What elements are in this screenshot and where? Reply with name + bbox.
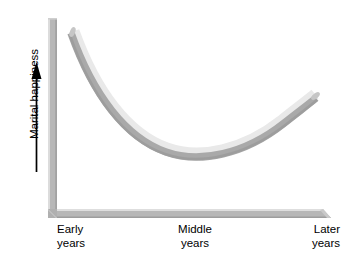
y-axis-highlight bbox=[48, 18, 50, 218]
x-tick-label-later-years: Later years bbox=[280, 223, 340, 250]
curve-highlight-band bbox=[74, 31, 315, 153]
y-axis-top-cap bbox=[48, 18, 57, 20]
chart-figure: Marital happiness Early years Middle yea… bbox=[0, 0, 349, 273]
x-tick-label-early-years: Early years bbox=[57, 223, 85, 250]
x-tick-label-middle-years: Middle years bbox=[160, 223, 230, 250]
y-axis-shade bbox=[55, 18, 57, 218]
marital-happiness-curve bbox=[68, 26, 321, 159]
x-axis-shadow bbox=[48, 217, 331, 219]
x-axis-highlight bbox=[48, 209, 324, 211]
y-axis-title: Marital happiness bbox=[28, 35, 40, 153]
